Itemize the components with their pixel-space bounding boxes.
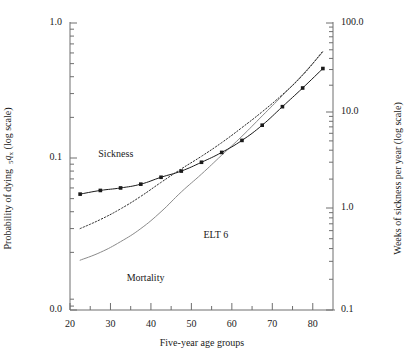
series-sickness [78,67,324,196]
y-left-tick-1-0: 1.0 [22,16,62,27]
x-tick-30: 30 [95,318,125,329]
x-tick-80: 80 [298,318,328,329]
x-tick-40: 40 [136,318,166,329]
y-right-tick-10-0: 10.0 [341,105,385,116]
x-tick-50: 50 [176,318,206,329]
y-left-tick-0-0: 0.0 [22,303,62,314]
series-label-elt-6: ELT 6 [204,229,229,240]
y-right-tick-1-0: 1.0 [341,201,385,212]
y-right-tick-0-1: 0.1 [341,303,385,314]
x-tick-60: 60 [217,318,247,329]
y-left-tick-0-1: 0.1 [22,151,62,162]
y-axis-right-title: Weeks of sickness per year (log scale) [390,0,406,357]
x-tick-70: 70 [257,318,287,329]
y-right-tick-100-0: 100.0 [341,16,385,27]
x-axis-title: Five-year age groups [70,337,334,348]
series-label-sickness: Sickness [98,148,133,159]
series-elt-6 [80,51,323,229]
series-label-mortality: Mortality [127,272,165,283]
x-tick-20: 20 [55,318,85,329]
y-axis-left-title: Probability of dying 5qx (log scale) [0,0,16,357]
chart-figure: Probability of dying 5qx (log scale) Wee… [0,0,406,357]
